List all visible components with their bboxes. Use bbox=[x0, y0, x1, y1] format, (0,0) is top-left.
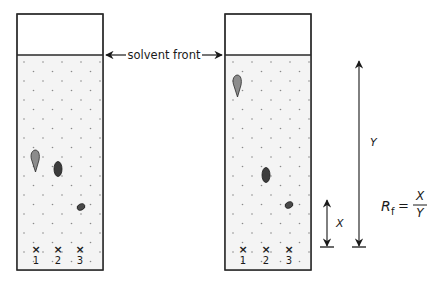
lane-label-3: 3 bbox=[286, 255, 292, 266]
solvent-front-label: solvent front bbox=[128, 48, 201, 62]
distance-y: Y bbox=[352, 61, 378, 247]
lane-label-2: 2 bbox=[55, 255, 61, 266]
solvent-front-annotation: solvent front bbox=[106, 48, 222, 62]
spot-lane-2 bbox=[262, 168, 270, 183]
formula-equals: = bbox=[398, 198, 409, 213]
left-plate: × × × 1 2 3 bbox=[17, 14, 103, 270]
lane-label-1: 1 bbox=[240, 255, 246, 266]
lane-label-3: 3 bbox=[77, 255, 83, 266]
formula-numerator: X bbox=[415, 189, 425, 203]
tlc-diagram: × × × 1 2 3 solvent front × × × 1 2 3 Y bbox=[0, 0, 440, 281]
lane-label-1: 1 bbox=[33, 255, 39, 266]
distance-x: X bbox=[320, 200, 344, 247]
right-plate: × × × 1 2 3 bbox=[225, 14, 311, 270]
formula-r: R bbox=[381, 198, 391, 214]
lane-label-2: 2 bbox=[263, 255, 269, 266]
rf-formula: R f = X Y bbox=[381, 189, 427, 220]
spot-lane-2 bbox=[54, 162, 62, 177]
formula-denominator: Y bbox=[416, 206, 425, 220]
formula-subscript: f bbox=[391, 206, 395, 217]
distance-x-label: X bbox=[335, 217, 344, 230]
distance-y-label: Y bbox=[370, 136, 378, 149]
